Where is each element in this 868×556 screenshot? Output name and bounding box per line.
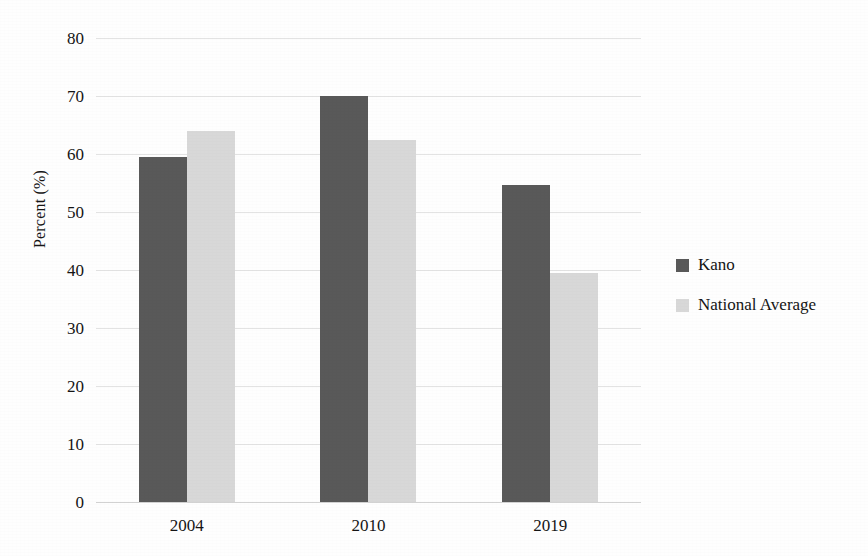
y-axis-tick-label: 40 <box>24 262 84 279</box>
y-axis-tick-label: 0 <box>24 494 84 511</box>
x-axis-tick-label: 2004 <box>117 516 257 536</box>
bar-group: 2010 <box>278 38 460 502</box>
y-axis-tick-label: 60 <box>24 146 84 163</box>
bar-national-average-2010 <box>368 140 416 502</box>
y-axis-tick-label: 50 <box>24 204 84 221</box>
legend-swatch-icon <box>676 299 689 312</box>
bar-group: 2004 <box>96 38 278 502</box>
y-axis-tick-label: 30 <box>24 320 84 337</box>
y-axis-tick-label: 80 <box>24 30 84 47</box>
plot-area: 80706050403020100200420102019 <box>96 38 641 502</box>
bar-kano-2004 <box>139 157 187 502</box>
legend-item-national-average: National Average <box>676 295 816 315</box>
bar-national-average-2019 <box>550 273 598 502</box>
legend-label: National Average <box>698 295 816 315</box>
x-axis-tick-label: 2019 <box>480 516 620 536</box>
bar-group: 2019 <box>459 38 641 502</box>
y-axis-tick-label: 20 <box>24 378 84 395</box>
bar-kano-2010 <box>320 96 368 502</box>
y-axis-tick-label: 70 <box>24 88 84 105</box>
legend-item-kano: Kano <box>676 255 816 275</box>
y-axis-tick-label: 10 <box>24 436 84 453</box>
gridline <box>96 502 641 503</box>
bar-chart: Percent (%) 8070605040302010020042010201… <box>0 0 868 556</box>
legend-label: Kano <box>698 255 735 275</box>
chart-legend: KanoNational Average <box>676 255 816 315</box>
bar-national-average-2004 <box>187 131 235 502</box>
bar-kano-2019 <box>502 185 550 502</box>
x-axis-tick-label: 2010 <box>298 516 438 536</box>
legend-swatch-icon <box>676 259 689 272</box>
